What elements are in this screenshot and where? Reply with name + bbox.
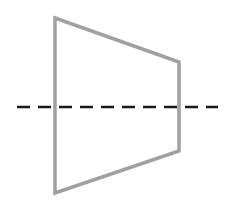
- trapezoid-diagram: [0, 0, 237, 208]
- trapezoid-shape: [55, 18, 179, 193]
- diagram-canvas: [0, 0, 237, 208]
